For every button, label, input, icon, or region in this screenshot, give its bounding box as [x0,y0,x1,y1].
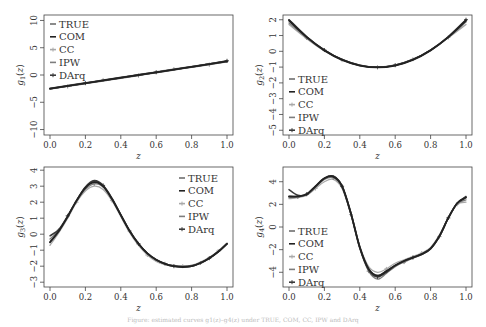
y-tick-label: 0 [268,224,278,229]
y-tick-label: 0 [268,49,278,54]
x-tick-label: 0.2 [318,292,332,302]
x-axis-label: z [135,303,141,313]
y-tick-label: −10 [29,121,39,139]
legend: TRUECOMCCIPWDArq [289,226,328,288]
legend: TRUECOMCCIPWDArq [289,74,328,136]
legend-label: CC [298,99,314,110]
x-tick-label: 0.4 [353,140,367,150]
x-tick-label: 0.4 [114,292,128,302]
legend-label: DArq [298,125,325,136]
legend-label: CC [59,44,75,55]
y-axis-label: g3(z) [15,216,27,238]
x-tick-label: 0.0 [282,292,296,302]
x-tick-label: 0.6 [149,292,163,302]
y-tick-label: 2 [268,202,278,207]
legend-item-cc: CC [289,251,314,262]
chart-panel-4: 0.00.20.40.60.81.0z−4−2024g4(z)TRUECOMCC… [254,167,473,313]
y-tick-label: 0 [29,72,39,77]
legend-item-ipw: IPW [289,264,320,275]
y-tick-label: 4 [268,179,278,184]
y-tick-label: 2 [268,17,278,22]
legend-item-cc: CC [179,198,204,209]
y-tick-label: −4 [268,108,278,121]
x-axis: 0.00.20.40.60.81.0z [43,135,234,161]
y-tick-label: 10 [29,15,39,26]
legend-label: TRUE [298,74,328,85]
y-tick-label: −1 [29,244,39,257]
y-axis: −10−50510g1(z) [15,15,44,138]
legend-item-true: TRUE [179,173,218,184]
y-tick-label: −5 [29,96,39,109]
legend-item-cc: CC [289,99,314,110]
y-axis: −4−2024g4(z) [254,179,283,279]
legend-item-darq: DArq [289,125,325,136]
x-axis-label: z [374,303,380,313]
legend-label: COM [298,86,324,97]
legend-item-true: TRUE [289,226,328,237]
legend: TRUECOMCCIPWDArq [50,19,89,81]
y-tick-label: 0 [29,231,39,236]
x-axis: 0.00.20.40.60.81.0z [282,135,473,161]
x-tick-label: 1.0 [220,292,234,302]
x-tick-label: 1.0 [459,140,473,150]
legend-item-com: COM [289,238,324,249]
legend-label: DArq [59,70,86,81]
y-tick-label: 1 [29,215,39,220]
legend-item-com: COM [289,86,324,97]
legend-label: IPW [59,57,81,68]
legend-label: TRUE [188,173,218,184]
chart-panel-3: 0.00.20.40.60.81.0z−3−2−101234g3(z)TRUEC… [15,167,234,313]
y-tick-label: 1 [268,33,278,38]
x-tick-label: 1.0 [220,140,234,150]
legend-label: COM [188,185,214,196]
legend-label: COM [59,31,85,42]
x-tick-label: 0.2 [79,140,93,150]
x-tick-label: 0.6 [388,292,402,302]
legend-label: DArq [298,277,325,288]
legend: TRUECOMCCIPWDArq [179,173,218,235]
y-axis-label: g4(z) [254,216,266,238]
legend-item-darq: DArq [289,277,325,288]
legend-label: IPW [188,211,210,222]
legend-label: TRUE [298,226,328,237]
y-tick-label: 3 [29,183,39,188]
legend-label: IPW [298,112,320,123]
y-tick-label: −1 [268,61,278,74]
chart-panel-1: 0.00.20.40.60.81.0z−10−50510g1(z)TRUECOM… [15,15,234,161]
x-tick-label: 0.0 [43,292,57,302]
x-tick-label: 0.8 [185,140,199,150]
legend-label: CC [298,251,314,262]
x-tick-label: 0.0 [43,140,57,150]
series-lines [289,18,468,70]
legend-item-true: TRUE [289,74,328,85]
legend-item-ipw: IPW [50,57,81,68]
legend-item-darq: DArq [179,224,215,235]
legend-item-ipw: IPW [289,112,320,123]
y-axis-label: g1(z) [15,64,27,86]
y-tick-label: 5 [29,45,39,50]
x-tick-label: 0.8 [185,292,199,302]
series-line-com [289,21,466,68]
x-axis: 0.00.20.40.60.81.0z [43,287,234,313]
y-tick-label: 2 [29,199,39,204]
x-tick-label: 0.0 [282,140,296,150]
x-tick-label: 0.4 [353,292,367,302]
y-tick-label: −3 [268,92,278,105]
legend-item-cc: CC [50,44,75,55]
legend-label: DArq [188,224,215,235]
y-axis-label: g2(z) [254,64,266,86]
legend-item-ipw: IPW [179,211,210,222]
y-tick-label: −2 [268,77,278,90]
legend-label: CC [188,198,204,209]
y-tick-label: −3 [29,276,39,289]
y-tick-label: 4 [29,167,39,172]
series-line-cc [289,24,466,67]
legend-item-com: COM [50,31,85,42]
y-tick-label: −5 [268,124,278,137]
chart-panel-2: 0.00.20.40.60.81.0z−5−4−3−2−1012g2(z)TRU… [254,15,473,161]
x-tick-label: 0.8 [424,140,438,150]
x-tick-label: 0.2 [79,292,93,302]
x-tick-label: 0.6 [149,140,163,150]
x-tick-label: 0.6 [388,140,402,150]
y-tick-label: −4 [268,266,278,279]
